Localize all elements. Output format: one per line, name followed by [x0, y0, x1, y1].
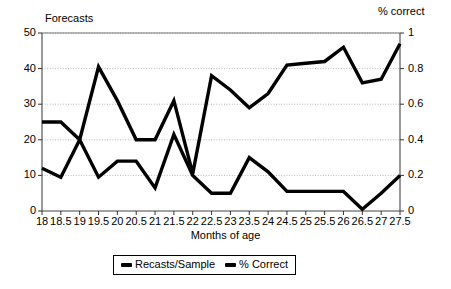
- left-axis-tick-label: 40: [12, 62, 36, 74]
- right-axis-tick-label: 0.4: [408, 133, 423, 145]
- left-axis-tick-label: 50: [12, 26, 36, 38]
- x-axis-tick-label: 21.5: [163, 215, 184, 227]
- x-axis-tick-label: 18: [36, 215, 48, 227]
- x-axis-tick-label: 25: [300, 215, 312, 227]
- x-axis-tick-label: 22.5: [201, 215, 222, 227]
- legend-item-percent-correct: % Correct: [225, 258, 288, 271]
- x-axis-tick-label: 23: [224, 215, 236, 227]
- x-axis-tick-label: 21: [149, 215, 161, 227]
- x-axis-tick-label: 24.5: [276, 215, 297, 227]
- right-axis-tick-label: 0.2: [408, 168, 423, 180]
- right-axis-tick-label: 0.8: [408, 62, 423, 74]
- left-axis-tick-label: 10: [12, 168, 36, 180]
- series-line: [42, 134, 400, 209]
- legend-item-recasts-sample: Recasts/Sample: [121, 258, 215, 271]
- x-axis-tick-label: 25.5: [314, 215, 335, 227]
- left-axis-tick-label: 30: [12, 97, 36, 109]
- x-axis-tick-label: 23.5: [239, 215, 260, 227]
- legend-label: % Correct: [239, 258, 288, 271]
- x-axis-tick-label: 19: [74, 215, 86, 227]
- right-axis-tick-label: 0.6: [408, 97, 423, 109]
- legend-marker-icon: [121, 263, 132, 267]
- x-axis-tick-label: 20.5: [125, 215, 146, 227]
- x-axis-tick-label: 26: [337, 215, 349, 227]
- x-axis-tick-label: 26.5: [352, 215, 373, 227]
- left-axis-tick-label: 0: [12, 204, 36, 216]
- chart-legend: Recasts/Sample % Correct: [113, 255, 296, 275]
- x-axis-tick-label: 27: [375, 215, 387, 227]
- x-axis-title: Months of age: [0, 229, 451, 241]
- legend-marker-icon: [225, 263, 236, 267]
- x-axis-tick-label: 24: [262, 215, 274, 227]
- left-axis-tick-label: 20: [12, 133, 36, 145]
- right-axis-tick-label: 1: [408, 26, 414, 38]
- x-axis-tick-label: 22: [187, 215, 199, 227]
- x-axis-tick-label: 18.5: [50, 215, 71, 227]
- x-axis-tick-label: 20: [111, 215, 123, 227]
- series-line: [42, 44, 400, 174]
- legend-label: Recasts/Sample: [135, 258, 215, 271]
- x-axis-tick-label: 27.5: [389, 215, 410, 227]
- plot-area: [0, 0, 451, 289]
- x-axis-tick-label: 19.5: [88, 215, 109, 227]
- chart-container: Forecasts % correct 01020304050 00.20.40…: [0, 0, 451, 289]
